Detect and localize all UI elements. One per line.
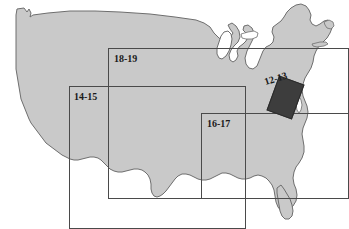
lake-erie-ontario-path — [241, 31, 258, 39]
inset-label-18-19: 18-19 — [114, 54, 137, 64]
inset-label-14-15: 14-15 — [74, 92, 97, 102]
us-reference-map-figure: 18-19 14-15 16-17 12-13 — [0, 0, 349, 229]
inset-label-16-17: 16-17 — [207, 119, 230, 129]
